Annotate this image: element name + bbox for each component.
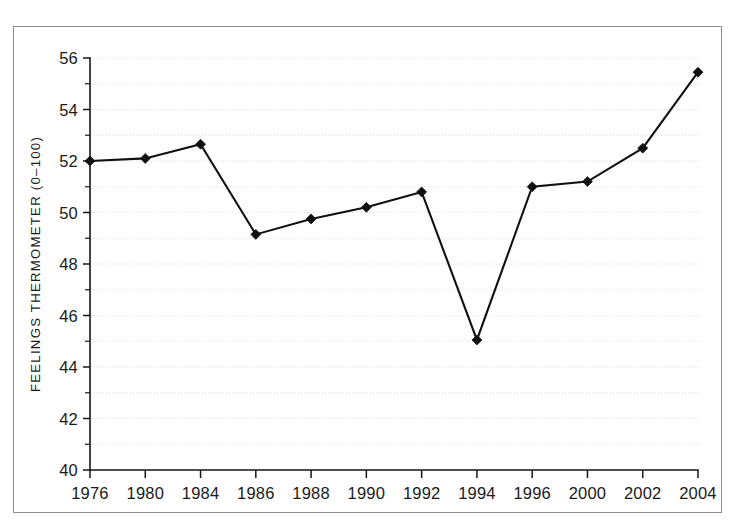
x-ticks bbox=[90, 470, 698, 478]
y-tick-labels: 404244464850525456 bbox=[59, 49, 78, 479]
x-tick-label: 1992 bbox=[403, 484, 441, 502]
y-tick-label: 40 bbox=[59, 461, 78, 479]
x-tick-label: 1988 bbox=[292, 484, 330, 502]
y-tick-label: 46 bbox=[59, 307, 78, 325]
y-tick-label: 50 bbox=[59, 204, 78, 222]
x-tick-label: 1976 bbox=[71, 484, 109, 502]
x-tick-label: 1980 bbox=[127, 484, 165, 502]
data-point-marker bbox=[472, 335, 482, 345]
data-point-marker bbox=[196, 139, 206, 149]
y-major-ticks bbox=[83, 58, 90, 470]
y-tick-label: 44 bbox=[59, 358, 78, 376]
x-tick-label: 1994 bbox=[458, 484, 496, 502]
data-series-line bbox=[90, 72, 698, 340]
x-tick-label: 2000 bbox=[569, 484, 607, 502]
data-point-marker bbox=[417, 187, 427, 197]
data-point-marker bbox=[140, 153, 150, 163]
x-tick-labels: 1976198019841986198819901992199419962000… bbox=[71, 484, 717, 502]
x-tick-label: 1984 bbox=[182, 484, 220, 502]
data-point-marker bbox=[361, 202, 371, 212]
data-point-marker bbox=[306, 214, 316, 224]
x-tick-label: 1996 bbox=[513, 484, 551, 502]
data-point-marker bbox=[582, 177, 592, 187]
x-tick-label: 1986 bbox=[237, 484, 275, 502]
y-tick-label: 56 bbox=[59, 49, 78, 67]
x-tick-label: 2004 bbox=[679, 484, 717, 502]
y-tick-label: 52 bbox=[59, 152, 78, 170]
y-tick-label: 54 bbox=[59, 101, 78, 119]
gridlines bbox=[91, 58, 698, 470]
x-tick-label: 1990 bbox=[348, 484, 386, 502]
line-chart: 404244464850525456 197619801984198619881… bbox=[0, 0, 745, 532]
data-point-marker bbox=[251, 229, 261, 239]
y-axis-title: FEELINGS THERMOMETER (0–100) bbox=[28, 136, 43, 392]
data-point-marker bbox=[85, 156, 95, 166]
y-tick-label: 48 bbox=[59, 255, 78, 273]
y-tick-label: 42 bbox=[59, 410, 78, 428]
x-tick-label: 2002 bbox=[624, 484, 662, 502]
data-point-marker bbox=[527, 182, 537, 192]
data-markers bbox=[85, 67, 703, 345]
